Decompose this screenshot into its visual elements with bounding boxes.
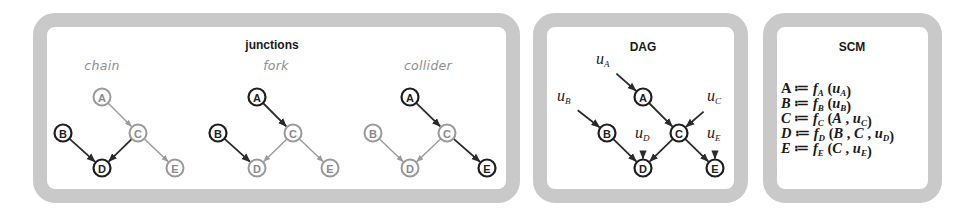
diagram-canvas: junctions chain fork collider DAG SCM AB… [0,0,977,213]
node-label: D [98,163,106,175]
dag-title: DAG [630,40,657,54]
node-label: C [675,128,683,140]
node-a: A [635,89,652,106]
edge-b-d [224,139,250,162]
node-label: A [253,92,261,104]
node-c: C [285,125,302,142]
node-label: B [59,128,67,140]
edge-c-e [299,139,323,162]
junction-chain: ABCDE [55,89,184,177]
edge-b-d [69,139,95,162]
edge-c-d [109,139,132,161]
node-c: C [439,125,456,142]
scm-title: SCM [839,40,866,54]
node-e: E [167,160,184,177]
noise-edge-ua [616,74,635,91]
node-label: C [289,128,297,140]
node-label: C [443,128,451,140]
equation-e: E ≔ fE (C , uE) [780,140,872,160]
edge-c-e [685,139,708,161]
node-b: B [210,125,227,142]
edge-c-d [417,139,441,162]
edge-c-e [144,139,168,162]
noise-label-uc: uC [707,87,722,106]
node-label: D [253,163,261,175]
node-d: D [402,160,419,177]
edge-c-d [264,139,287,161]
noise-edge-uc [686,112,703,127]
node-label: B [214,128,222,140]
node-label: A [98,92,106,104]
edge-a-c [649,103,672,126]
node-e: E [322,160,339,177]
noise-label-ud: uD [635,124,650,143]
node-label: B [369,128,377,140]
edge-b-d [613,139,636,161]
noise-label-ue: uE [707,124,721,143]
node-a: A [249,89,266,106]
node-label: D [406,163,414,175]
edge-a-c [263,103,286,126]
node-a: A [402,89,419,106]
node-b: B [365,125,382,142]
node-a: A [94,89,111,106]
node-b: B [55,125,72,142]
node-label: E [711,163,718,175]
node-e: E [479,160,496,177]
node-label: C [134,128,142,140]
node-d: D [249,160,266,177]
edge-c-d [650,139,673,161]
node-label: E [326,163,333,175]
node-c: C [130,125,147,142]
junction-graphs: ABCDEABCDEABCDE [55,89,496,177]
node-b: B [599,125,616,142]
node-label: D [639,163,647,175]
noise-label-ub: uB [557,87,571,106]
fork-label: fork [263,58,289,73]
edge-a-c [416,103,440,126]
junctions-title: junctions [244,38,299,52]
junction-collider: ABCDE [365,89,496,177]
node-d: D [94,160,111,177]
collider-label: collider [404,58,453,73]
node-d: D [635,160,652,177]
scm-equations: A ≔ fA (uA)B ≔ fB (uB)C ≔ fC (A , uC)D ≔… [780,80,894,160]
node-label: A [406,92,414,104]
node-label: A [639,92,647,104]
chain-label: chain [84,58,119,73]
node-c: C [671,125,688,142]
node-label: B [603,128,611,140]
edge-b-d [379,139,403,162]
node-e: E [707,160,724,177]
edge-c-e [453,139,479,162]
dag-graph: uAuBuCuDuEABCDE [557,50,724,177]
edge-a-c [108,103,131,126]
noise-edge-ub [578,110,600,127]
junction-fork: ABCDE [210,89,339,177]
node-label: E [171,163,178,175]
noise-label-ua: uA [596,50,610,69]
node-label: E [483,163,490,175]
